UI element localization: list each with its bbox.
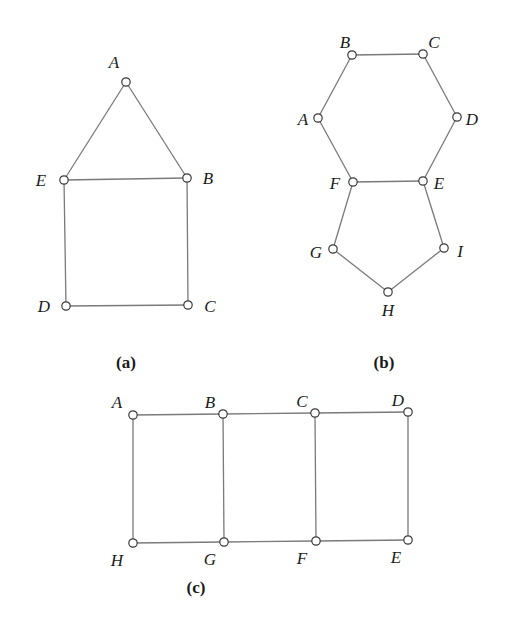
- vertex-label-a: A: [111, 393, 123, 412]
- vertex-h: [129, 539, 137, 547]
- edge-a-b: [126, 82, 187, 178]
- vertex-c: [184, 301, 192, 309]
- vertex-label-e: E: [433, 174, 445, 193]
- vertex-d: [404, 408, 412, 416]
- vertex-e: [404, 536, 412, 544]
- vertex-label-g: G: [310, 243, 322, 262]
- vertex-d: [453, 113, 461, 121]
- vertex-d: [62, 302, 70, 310]
- graph-figure: ABCDE(a) ABCDEFGHI(b) ABCDEFGH(c): [0, 0, 508, 617]
- vertex-label-e: E: [390, 548, 402, 567]
- vertex-label-g: G: [204, 550, 216, 569]
- vertex-label-f: F: [296, 549, 308, 568]
- vertex-i: [440, 244, 448, 252]
- graph-c-ladder: ABCDEFGH(c): [110, 391, 412, 597]
- edge-c-f: [315, 413, 316, 541]
- edge-g-h: [133, 542, 224, 543]
- vertex-b: [348, 51, 356, 59]
- edge-f-a: [318, 118, 353, 182]
- vertex-label-b: B: [205, 393, 216, 412]
- caption-a: (a): [116, 353, 136, 372]
- edge-b-c: [352, 54, 423, 55]
- vertex-label-c: C: [296, 392, 308, 411]
- vertex-label-b: B: [203, 169, 214, 188]
- edge-b-c: [223, 413, 315, 414]
- edge-a-b: [318, 55, 352, 118]
- edge-f-g: [224, 541, 316, 542]
- vertex-h: [384, 288, 392, 296]
- edge-e-f: [316, 540, 408, 541]
- vertex-label-c: C: [428, 33, 440, 52]
- graph-b-hexagon-pentagon: ABCDEFGHI(b): [297, 33, 479, 372]
- vertex-a: [129, 411, 137, 419]
- vertex-f: [349, 178, 357, 186]
- vertex-f: [312, 537, 320, 545]
- edge-b-c: [187, 178, 188, 305]
- vertex-label-a: A: [297, 110, 309, 129]
- vertex-label-i: I: [456, 242, 464, 261]
- vertex-label-h: H: [381, 301, 396, 320]
- vertex-label-c: C: [204, 297, 216, 316]
- vertex-label-h: H: [110, 551, 125, 570]
- caption-b: (b): [374, 353, 395, 372]
- edge-c-d: [315, 412, 408, 413]
- caption-c: (c): [187, 578, 206, 597]
- vertex-label-a: A: [108, 53, 120, 72]
- vertex-label-e: E: [35, 171, 47, 190]
- edge-g-h: [333, 249, 388, 292]
- vertex-g: [220, 538, 228, 546]
- vertex-label-d: D: [465, 110, 479, 129]
- vertex-c: [311, 409, 319, 417]
- vertex-label-b: B: [340, 33, 351, 52]
- edge-e-d: [64, 180, 66, 306]
- vertex-b: [219, 410, 227, 418]
- edge-d-c: [66, 305, 188, 306]
- vertex-a: [314, 114, 322, 122]
- vertex-label-d: D: [37, 297, 51, 316]
- vertex-e: [60, 176, 68, 184]
- edge-b-g: [223, 414, 224, 542]
- vertex-label-d: D: [391, 391, 405, 410]
- vertex-g: [329, 245, 337, 253]
- vertex-label-f: F: [329, 174, 341, 193]
- edge-h-i: [388, 248, 444, 292]
- edge-e-f: [353, 181, 423, 182]
- vertex-a: [122, 78, 130, 86]
- edge-d-e: [423, 117, 457, 181]
- edge-a-e: [64, 82, 126, 180]
- edge-c-d: [423, 54, 457, 117]
- vertex-c: [419, 50, 427, 58]
- graph-a-house: ABCDE(a): [35, 53, 217, 372]
- vertex-b: [183, 174, 191, 182]
- edge-a-b: [133, 414, 223, 415]
- vertex-e: [419, 177, 427, 185]
- edge-e-b: [64, 178, 187, 180]
